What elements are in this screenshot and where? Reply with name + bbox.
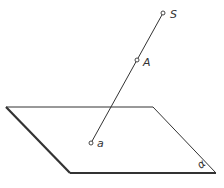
point-S <box>161 11 165 15</box>
label-a: a <box>97 137 104 150</box>
projection-diagram: S A a α <box>0 0 224 188</box>
label-S: S <box>170 8 177 21</box>
label-plane-alpha: α <box>194 156 208 171</box>
projection-line <box>91 13 163 143</box>
point-A <box>135 58 139 62</box>
point-a <box>89 141 93 145</box>
label-A: A <box>142 56 151 69</box>
plane-front-edge <box>6 107 70 173</box>
